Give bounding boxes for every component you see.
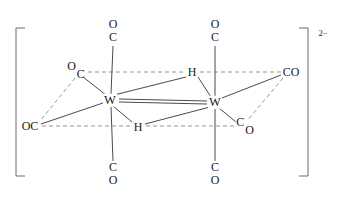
carbonyl-upper-left-O: O xyxy=(67,59,77,73)
bond-W1-COtopleft xyxy=(111,46,113,94)
atom-W2: W xyxy=(208,96,222,109)
bond-W1-Htop xyxy=(114,77,186,95)
carbonyl-upper-left: OC xyxy=(67,64,86,76)
bond-W1-CObottomleft xyxy=(111,107,113,161)
carbonyl-top-right: O C xyxy=(210,18,221,43)
bond-W1-Hbottom xyxy=(113,106,132,122)
carbonyl-bottom-left: C O xyxy=(108,161,119,186)
carbonyl-lower-right: CO xyxy=(236,120,255,132)
carbonyl-bottom-right-O: O xyxy=(210,174,221,187)
bond-W1-W2-lower xyxy=(119,102,207,104)
dashed-edge-upperrightC-lowerrightC xyxy=(247,78,283,121)
carbonyl-lower-right-C: C xyxy=(236,115,245,129)
atom-W1: W xyxy=(103,94,117,107)
structure-figure: W W H H O C O C C O C O OC OC CO CO 2− xyxy=(0,0,339,200)
carbonyl-top-left-O: O xyxy=(108,18,119,31)
atom-H-bottom: H xyxy=(133,121,144,133)
carbonyl-bottom-left-O: O xyxy=(108,174,119,187)
bond-W2-COupperright xyxy=(222,75,281,98)
carbonyl-top-right-O: O xyxy=(210,18,221,31)
carbonyl-bottom-right-C: C xyxy=(210,161,220,174)
bond-skeleton xyxy=(0,0,339,200)
charge-label: 2− xyxy=(318,29,327,38)
bond-W1-W2-upper xyxy=(119,99,207,101)
carbonyl-lower-right-O: O xyxy=(245,123,255,137)
metal-metal-bond xyxy=(119,99,207,104)
bond-W1-OCleft xyxy=(41,103,103,124)
atom-H-top: H xyxy=(187,66,198,78)
bond-W1-OCupperleft xyxy=(83,77,106,95)
carbonyl-upper-left-C: C xyxy=(76,67,85,81)
bond-W2-Hbottom xyxy=(145,107,210,124)
bond-W2-COlowerright xyxy=(219,108,236,122)
carbonyl-top-left: O C xyxy=(108,18,119,43)
carbonyl-top-right-C: C xyxy=(210,31,220,44)
carbonyl-bottom-left-C: C xyxy=(108,161,118,174)
left-bracket xyxy=(16,28,25,176)
carbonyl-upper-right: CO xyxy=(282,66,301,78)
carbonyl-left: OC xyxy=(21,120,40,132)
carbonyl-top-left-C: C xyxy=(108,31,118,44)
right-bracket xyxy=(299,28,308,176)
charge-brackets xyxy=(16,28,308,176)
carbonyl-bottom-right: C O xyxy=(210,161,221,186)
